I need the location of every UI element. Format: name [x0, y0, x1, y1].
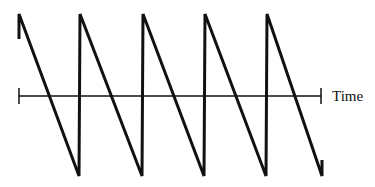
waveform-canvas	[0, 0, 375, 187]
time-axis-label: Time	[332, 88, 363, 105]
sawtooth-wave	[19, 14, 322, 176]
sawtooth-diagram: Time	[0, 0, 375, 187]
